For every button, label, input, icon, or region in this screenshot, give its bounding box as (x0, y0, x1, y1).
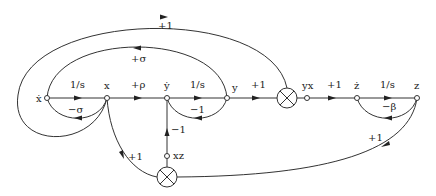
arrow-icon (133, 46, 141, 51)
label-x: x (104, 80, 110, 91)
lower-multiplier (157, 167, 177, 187)
node-x (105, 96, 110, 101)
arrow-icon (194, 116, 202, 121)
node-xz (165, 154, 170, 159)
node-y (225, 96, 230, 101)
label-z-dot: ż (354, 80, 359, 91)
gain-x-lower-mult: +1 (128, 151, 143, 162)
arrow-icon (74, 116, 82, 121)
node-y-dot (165, 96, 170, 101)
gain-xdot-x: 1/s (70, 79, 85, 90)
gain-xz-ydot: −1 (171, 124, 186, 135)
gain-yx-zdot: +1 (327, 79, 342, 90)
arrow-icon (328, 96, 336, 101)
node-z-dot (355, 96, 360, 101)
node-z (415, 96, 420, 101)
gain-x-ydot: +ρ (131, 79, 145, 90)
gain-x-xdot: −σ (68, 104, 83, 115)
gain-y-ydot: −1 (190, 104, 205, 115)
arrow-icon (252, 96, 260, 101)
node-yx (305, 96, 310, 101)
arrow-icon (165, 128, 170, 136)
arrow-icon (384, 96, 392, 101)
label-z: z (414, 80, 419, 91)
label-x-dot: ẋ (36, 93, 42, 104)
gain-zdot-z: 1/s (380, 79, 395, 90)
gain-y-mult: +1 (251, 79, 266, 90)
edge-x-upper-mult (17, 28, 287, 136)
arrow-icon (384, 116, 392, 121)
gain-x-upper-mult: +1 (158, 20, 173, 31)
gain-y-xdot: +σ (131, 53, 146, 64)
arrow-icon (74, 96, 82, 101)
gain-z-zdot: −β (382, 101, 396, 112)
arrow-icon (160, 15, 168, 20)
label-xz: xz (173, 150, 184, 161)
arrow-icon (194, 96, 202, 101)
node-x-dot (45, 96, 50, 101)
upper-multiplier (277, 88, 297, 108)
label-y: y (231, 82, 238, 93)
label-y-dot: ẏ (163, 80, 170, 91)
label-yx: yx (301, 80, 314, 91)
edge-x-lower-mult (107, 98, 157, 177)
signal-flow-graph: ẋ x ẏ y yx ż z xz 1/s +ρ 1/s +1 +1 1/s −… (0, 0, 436, 196)
gain-ydot-y: 1/s (190, 79, 205, 90)
gain-z-lower-mult: +1 (368, 132, 383, 143)
arrow-icon (134, 96, 142, 101)
